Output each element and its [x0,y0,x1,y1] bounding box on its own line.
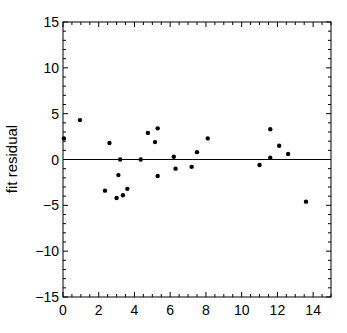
data-point [173,166,177,170]
y-tick-label: −10 [35,243,59,259]
data-point [107,141,111,145]
y-tick-label: 10 [43,60,59,76]
data-point [125,187,129,191]
x-tick-label: 14 [305,302,321,318]
y-tick-label: −5 [43,197,59,213]
x-tick-label: 6 [166,302,174,318]
data-point [155,126,159,130]
data-point [118,157,122,161]
y-tick-label: 0 [51,152,59,168]
x-tick-label: 2 [95,302,103,318]
residual-scatter-chart: 02468101214 −15−10−5051015 fit residual [0,0,347,333]
y-axis-label: fit residual [3,125,20,193]
y-tick-label: 5 [51,106,59,122]
data-point [195,150,199,154]
y-tick-label: 15 [43,14,59,30]
data-point [172,155,176,159]
data-point [304,199,308,203]
data-point [146,131,150,135]
data-point [153,140,157,144]
data-point [139,157,143,161]
y-tick-label: −15 [35,289,59,305]
data-point [277,144,281,148]
x-tick-label: 0 [59,302,67,318]
data-point [121,193,125,197]
data-point [114,196,118,200]
x-axis-tick-labels: 02468101214 [59,302,321,318]
data-point [78,118,82,122]
data-point [257,163,261,167]
data-point [103,188,107,192]
x-tick-label: 8 [202,302,210,318]
data-point [155,174,159,178]
data-point [286,152,290,156]
data-point [62,136,66,140]
x-tick-label: 4 [131,302,139,318]
x-tick-label: 12 [270,302,286,318]
x-tick-label: 10 [234,302,250,318]
data-point [206,136,210,140]
data-point [189,165,193,169]
data-point [268,127,272,131]
data-point [268,155,272,159]
data-point [116,173,120,177]
y-axis-tick-labels: −15−10−5051015 [35,14,59,305]
data-points [62,118,308,204]
